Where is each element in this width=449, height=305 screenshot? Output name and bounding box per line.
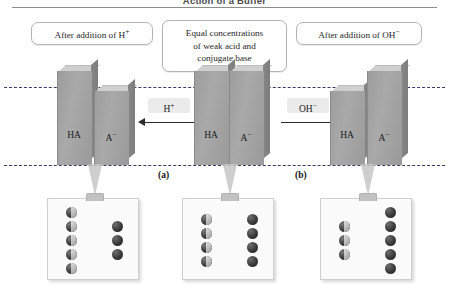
molecule-a-sphere [385, 207, 396, 218]
molecule-a-sphere [247, 228, 258, 239]
molecule-box-middle [182, 198, 274, 280]
bar-middle-a-label: A− [229, 130, 263, 143]
bar-left-a-front-face [94, 91, 129, 165]
molecule-ha-sphere [339, 221, 350, 232]
callout-left-text: After addition of H [55, 30, 126, 40]
molecule-ha-sphere [339, 249, 350, 260]
bar-middle-a-label-superscript: − [247, 130, 251, 139]
bar-right-a [367, 65, 401, 159]
bar-right-a-label-superscript: − [385, 130, 389, 139]
panel-label-b: (b) [295, 170, 307, 180]
molecule-a-sphere [247, 256, 258, 267]
molecule-ha-sphere [66, 249, 77, 260]
molecule-a-sphere [112, 249, 123, 260]
arrow-right-shaft [281, 122, 335, 123]
callout-right-text: After addition of OH [318, 30, 395, 40]
molecule-box-right-ha-column [321, 199, 367, 281]
molecule-a-sphere [385, 221, 396, 232]
bar-right-ha-label-text: HA [340, 130, 354, 140]
arrow-left-head-icon [138, 118, 145, 126]
bar-middle-ha-label-text: HA [204, 130, 218, 140]
arrow-label-oh-minus: OH− [287, 98, 329, 113]
bar-right-a-front-face [367, 71, 402, 165]
arrow-left-label-superscript: + [170, 101, 174, 110]
molecule-box-middle-ha-column [183, 199, 229, 281]
callout-mid-line3: conjugate base [197, 53, 251, 63]
bar-left-ha-label-text: HA [67, 130, 81, 140]
molecule-a-sphere [112, 235, 123, 246]
panel-label-a: (a) [158, 170, 169, 180]
molecule-a-sphere [247, 242, 258, 253]
bar-middle-ha-front-face [194, 71, 229, 165]
bar-middle-a [229, 65, 263, 159]
molecule-ha-sphere [201, 256, 212, 267]
bar-left-ha-front-face [57, 71, 92, 165]
molecule-a-sphere [247, 214, 258, 225]
bar-left-ha [57, 65, 91, 159]
molecule-ha-sphere [339, 235, 350, 246]
molecule-a-sphere [112, 221, 123, 232]
molecule-box-left [47, 198, 139, 280]
callout-right-superscript: − [396, 27, 400, 36]
molecule-ha-sphere [66, 263, 77, 274]
molecule-ha-sphere [201, 242, 212, 253]
callout-mid-line1: Equal concentrations [186, 28, 263, 38]
callout-after-addition-of-oh: After addition of OH− [296, 22, 422, 45]
molecule-a-sphere [385, 235, 396, 246]
molecule-ha-sphere [66, 207, 77, 218]
funnel-right [361, 164, 375, 196]
bar-left-a-side-face [128, 79, 135, 159]
bar-left-a-label-superscript: − [112, 130, 116, 139]
callout-after-addition-of-h: After addition of H+ [31, 22, 153, 45]
molecule-box-right-a-column [367, 199, 413, 281]
figure-header-title: Action of a Buffer [0, 0, 449, 6]
bar-middle-a-front-face [229, 71, 264, 165]
bar-middle-ha [194, 65, 228, 159]
molecule-box-right [320, 198, 412, 280]
bar-left-a [94, 85, 128, 159]
bar-right-ha-front-face [330, 91, 365, 165]
molecule-ha-sphere [201, 228, 212, 239]
funnel-left [88, 164, 102, 196]
bar-left-ha-label: HA [57, 130, 91, 140]
funnel-middle [223, 164, 237, 196]
molecule-ha-sphere [66, 235, 77, 246]
bar-right-ha-label: HA [330, 130, 364, 140]
bar-right-a-side-face [401, 59, 408, 159]
molecule-box-left-ha-column [48, 199, 94, 281]
arrow-right-label-superscript: − [313, 101, 317, 110]
molecule-ha-sphere [66, 221, 77, 232]
figure-action-of-a-buffer: Action of a Buffer After addition of H+ … [0, 0, 449, 305]
arrow-left-shaft [142, 122, 196, 123]
arrow-label-h-plus: H+ [148, 98, 190, 113]
molecule-box-middle-a-column [229, 199, 275, 281]
callout-mid-line2: of weak acid and [193, 41, 256, 51]
bar-middle-a-side-face [263, 59, 270, 159]
molecule-a-sphere [385, 263, 396, 274]
bar-right-a-label: A− [367, 130, 401, 143]
bar-left-a-label: A− [94, 130, 128, 143]
header-divider [12, 7, 437, 8]
bar-middle-ha-label: HA [194, 130, 228, 140]
callout-left-superscript: + [125, 27, 129, 36]
arrow-right-label-text: OH [299, 104, 313, 114]
molecule-a-sphere [385, 249, 396, 260]
molecule-ha-sphere [201, 214, 212, 225]
molecule-box-left-a-column [94, 199, 140, 281]
bar-right-ha [330, 85, 364, 159]
